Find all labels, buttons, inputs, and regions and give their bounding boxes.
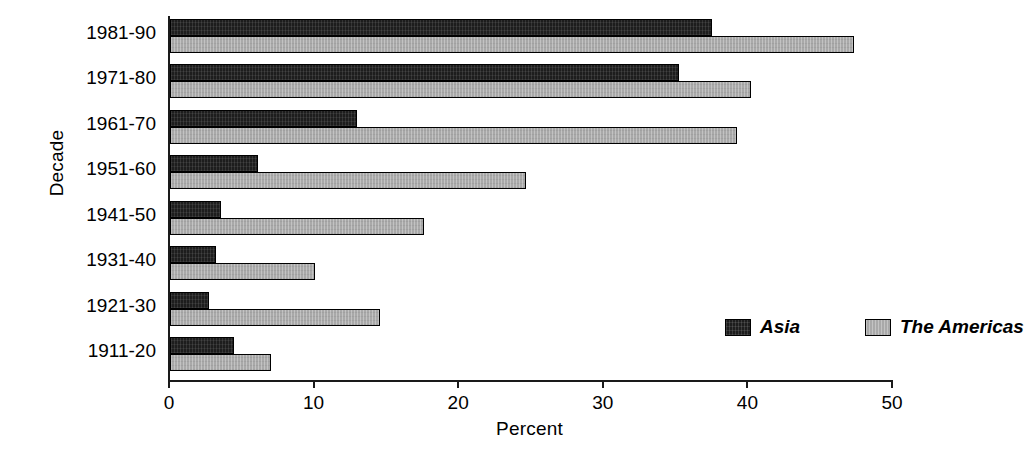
x-tick-label: 20: [430, 392, 486, 414]
x-tick-mark: [313, 380, 315, 388]
legend-label: The Americas: [900, 316, 1024, 338]
y-axis-category-label: 1981-90: [0, 22, 156, 44]
bar-asia: [170, 110, 357, 127]
x-axis-line: [168, 380, 891, 382]
x-tick-mark: [168, 380, 170, 388]
legend-swatch-americas: [865, 319, 891, 336]
bar-the-americas: [170, 309, 380, 326]
x-tick-label: 30: [575, 392, 631, 414]
y-axis-category-label: 1941-50: [0, 204, 156, 226]
x-tick-mark: [457, 380, 459, 388]
x-tick-mark: [891, 380, 893, 388]
x-tick-label: 0: [141, 392, 197, 414]
legend-swatch-asia: [725, 319, 751, 336]
bar-the-americas: [170, 172, 526, 189]
bar-asia: [170, 155, 258, 172]
x-tick-label: 10: [286, 392, 342, 414]
x-tick-mark: [602, 380, 604, 388]
bar-the-americas: [170, 218, 424, 235]
plot-area: 01020304050 1981-901971-801961-701951-60…: [168, 16, 891, 380]
x-tick-mark: [746, 380, 748, 388]
bar-the-americas: [170, 36, 854, 53]
y-axis-category-label: 1951-60: [0, 158, 156, 180]
bar-the-americas: [170, 354, 271, 371]
bar-asia: [170, 64, 679, 81]
bar-the-americas: [170, 263, 315, 280]
bar-asia: [170, 246, 216, 263]
bar-asia: [170, 337, 234, 354]
legend-entry-americas: The Americas: [865, 316, 1024, 338]
legend-entry-asia: Asia: [725, 316, 800, 338]
legend-label: Asia: [760, 316, 800, 338]
bar-the-americas: [170, 127, 737, 144]
x-axis-title: Percent: [168, 418, 891, 440]
bar-asia: [170, 201, 221, 218]
bar-asia: [170, 292, 209, 309]
bar-asia: [170, 19, 712, 36]
y-axis-category-label: 1971-80: [0, 67, 156, 89]
y-axis-category-label: 1931-40: [0, 249, 156, 271]
y-axis-category-label: 1921-30: [0, 295, 156, 317]
y-axis-category-label: 1911-20: [0, 340, 156, 362]
x-tick-label: 40: [719, 392, 775, 414]
x-tick-label: 50: [864, 392, 920, 414]
bar-the-americas: [170, 81, 751, 98]
y-axis-category-label: 1961-70: [0, 113, 156, 135]
